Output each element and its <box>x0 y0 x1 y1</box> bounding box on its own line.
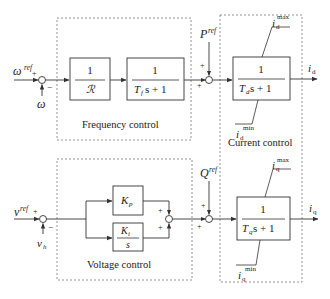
svg-text:ref: ref <box>209 165 218 174</box>
ki-block: K i s <box>113 223 143 251</box>
current-q-block: 1 T q s + 1 <box>237 197 290 240</box>
svg-text:i: i <box>238 269 241 281</box>
svg-text:i: i <box>128 230 130 238</box>
svg-text:q: q <box>313 208 317 216</box>
svg-text:T: T <box>242 222 249 234</box>
frequency-control-label: Frequency control <box>82 119 159 130</box>
svg-text:1: 1 <box>258 63 264 75</box>
svg-text:max: max <box>277 156 290 164</box>
svg-text:i: i <box>236 128 239 140</box>
vh-feedback-label: v h <box>37 237 47 251</box>
plus-sign: + <box>201 201 206 210</box>
svg-text:ω: ω <box>13 64 21 78</box>
svg-text:min: min <box>245 265 256 273</box>
svg-text:i: i <box>272 17 275 29</box>
iq-max-label: i q max <box>272 156 290 173</box>
sum-junction-frequency <box>39 77 46 84</box>
id-output-label: i d <box>308 62 316 76</box>
sum-junction-p <box>206 77 213 84</box>
plus-sign: + <box>200 61 205 70</box>
svg-text:h: h <box>43 243 47 251</box>
svg-text:P: P <box>199 27 208 41</box>
droop-block: 1 ℛ <box>70 58 110 100</box>
plus-sign: + <box>197 81 202 90</box>
voltage-control-label: Voltage control <box>87 259 151 270</box>
svg-text:i: i <box>308 62 311 74</box>
q-ref-label: Q ref <box>200 165 218 180</box>
iq-output-label: i q <box>309 202 317 216</box>
minus-sign: − <box>48 222 53 232</box>
svg-text:d: d <box>276 23 280 31</box>
control-diagram: Frequency control Current control Voltag… <box>0 0 330 299</box>
svg-text:s + 1: s + 1 <box>250 82 271 94</box>
svg-text:s + 1: s + 1 <box>145 83 166 95</box>
plus-sign: + <box>197 222 202 231</box>
svg-text:T: T <box>239 82 246 94</box>
svg-text:d: d <box>240 134 244 142</box>
svg-text:d: d <box>312 68 316 76</box>
p-ref-label: P ref <box>199 26 217 41</box>
omega-ref-label: ω ref <box>13 63 33 78</box>
svg-text:1: 1 <box>152 64 158 76</box>
svg-text:i: i <box>309 202 312 214</box>
svg-text:Q: Q <box>200 166 209 180</box>
svg-text:ref: ref <box>208 26 217 35</box>
sum-junction-pi <box>166 216 173 223</box>
svg-text:K: K <box>120 194 129 206</box>
svg-text:1: 1 <box>87 64 93 76</box>
plus-sign: + <box>32 69 37 78</box>
svg-text:v: v <box>37 237 42 249</box>
plus-sign: + <box>158 223 163 232</box>
sum-junction-voltage <box>40 216 47 223</box>
current-d-block: 1 T d s + 1 <box>233 57 290 100</box>
svg-text:q: q <box>276 165 280 173</box>
svg-text:T: T <box>134 83 141 95</box>
svg-text:ℛ: ℛ <box>86 83 96 95</box>
minus-sign: − <box>47 82 52 92</box>
plus-sign: + <box>33 207 38 216</box>
svg-text:s + 1: s + 1 <box>253 222 274 234</box>
frequency-filter-block: 1 T f s + 1 <box>127 58 184 100</box>
svg-text:q: q <box>242 275 246 283</box>
iq-min-label: i q min <box>238 265 256 283</box>
svg-text:1: 1 <box>260 203 266 215</box>
svg-text:s: s <box>126 239 130 250</box>
plus-sign: + <box>158 206 163 215</box>
omega-feedback-label: ω <box>37 97 45 111</box>
kp-block: K p <box>113 186 143 215</box>
svg-text:min: min <box>243 124 254 132</box>
svg-text:i: i <box>272 159 275 171</box>
svg-text:p: p <box>128 200 133 208</box>
id-max-label: i d max <box>272 13 290 31</box>
current-control-group <box>220 15 302 282</box>
svg-text:ref: ref <box>20 204 29 213</box>
sum-junction-q <box>206 216 213 223</box>
v-ref-label: v ref <box>14 204 29 219</box>
svg-text:max: max <box>277 13 290 21</box>
